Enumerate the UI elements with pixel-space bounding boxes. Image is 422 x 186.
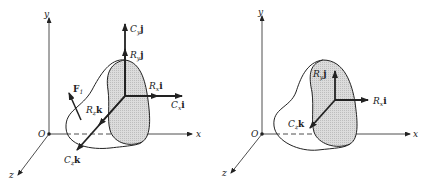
origin-point xyxy=(47,132,51,136)
x-axis-label: x xyxy=(196,129,201,139)
F1-force-arrow xyxy=(69,93,81,120)
z-axis-label: z xyxy=(221,168,227,178)
free-body-diagrams: y x z O F1 Cyj Ryj Rxi Cxi Rzk Czk y x z… xyxy=(0,0,422,186)
origin-label: O xyxy=(251,129,259,139)
x-axis-label: x xyxy=(413,129,418,139)
z-axis xyxy=(18,134,49,175)
origin-label: O xyxy=(38,129,46,139)
y-axis-label: y xyxy=(43,9,50,19)
z-axis xyxy=(231,134,262,173)
origin-point xyxy=(260,132,264,136)
F1-label: F1 xyxy=(73,84,83,95)
Cy-label: Cyj xyxy=(130,24,144,36)
y-axis-label: y xyxy=(257,7,264,17)
Cx-label: Cxi xyxy=(171,100,185,111)
right-diagram: y x z O Ryj Rxi Czk xyxy=(221,7,418,178)
Rx-label: Rxi xyxy=(148,81,163,92)
left-diagram: y x z O F1 Cyj Ryj Rxi Cxi Rzk Czk xyxy=(8,9,201,180)
Ry-label: Ryj xyxy=(129,50,143,62)
Rx-label: Rxi xyxy=(372,96,387,107)
cut-section xyxy=(107,60,149,144)
Cz-label: Czk xyxy=(288,119,305,130)
z-axis-label: z xyxy=(8,170,14,180)
Rz-label: Rzk xyxy=(85,105,103,116)
Cz-label: Czk xyxy=(64,155,81,166)
